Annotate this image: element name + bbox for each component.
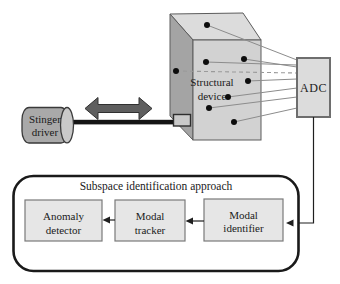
- modal-identifier-label-line2: identifier: [223, 222, 264, 234]
- diagram-canvas: Structural device ADC Stinger driver Sub…: [0, 0, 340, 284]
- excitation-arrow-icon: [85, 98, 152, 120]
- sensor-dot: [245, 78, 251, 84]
- anomaly-detector-label-line2: detector: [46, 224, 82, 236]
- rod-connector: [174, 115, 191, 127]
- stinger-driver-cap: [61, 108, 74, 143]
- structural-device-label-line2: device: [198, 90, 227, 102]
- subspace-title: Subspace identification approach: [80, 180, 233, 193]
- modal-tracker-label-line2: tracker: [135, 224, 166, 236]
- sensor-dot: [231, 119, 237, 125]
- stinger-rod: [67, 120, 177, 125]
- structural-device-label-line1: Structural: [190, 76, 233, 88]
- stinger-driver-label-line1: Stinger: [29, 113, 61, 125]
- modal-tracker-label-line1: Modal: [136, 210, 165, 222]
- sensor-dot: [173, 68, 179, 74]
- anomaly-detector-label-line1: Anomaly: [43, 210, 84, 222]
- modal-identifier-label-line1: Modal: [229, 209, 258, 221]
- sensor-dot: [206, 105, 212, 111]
- adc-label: ADC: [300, 81, 327, 95]
- sensor-dot: [203, 59, 209, 65]
- sensor-dot: [241, 56, 247, 62]
- stinger-driver-label-line2: driver: [32, 126, 59, 138]
- figure: Structural device ADC Stinger driver Sub…: [0, 0, 340, 284]
- sensor-dot: [204, 22, 210, 28]
